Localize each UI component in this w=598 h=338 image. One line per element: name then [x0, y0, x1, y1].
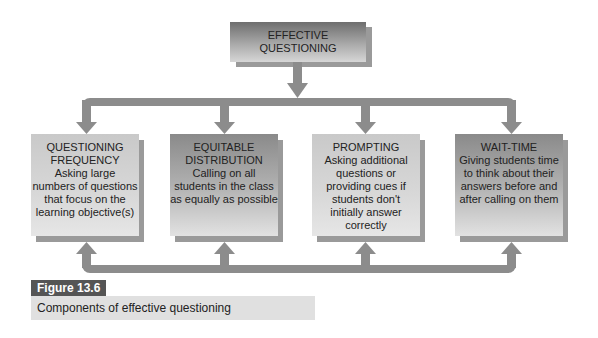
- component-desc: providing cues if: [312, 180, 420, 193]
- figure-label: Figure 13.6: [31, 280, 106, 296]
- root-line2: QUESTIONING: [230, 42, 366, 55]
- component-desc: Asking additional: [312, 154, 420, 167]
- component-desc: initially answer: [312, 206, 420, 219]
- stem-2: [220, 100, 229, 124]
- component-desc: students in the class: [170, 180, 278, 193]
- component-desc: after calling on them: [455, 193, 563, 206]
- component-title: FREQUENCY: [31, 154, 139, 167]
- component-prompting: PROMPTING Asking additional questions or…: [312, 134, 420, 236]
- root-box-effective-questioning: EFFECTIVE QUESTIONING: [230, 22, 366, 62]
- figure-caption: Components of effective questioning: [31, 296, 315, 320]
- component-desc: Calling on all: [170, 167, 278, 180]
- component-desc: Asking large: [31, 167, 139, 180]
- component-desc: questions or: [312, 167, 420, 180]
- component-desc: answers before and: [455, 180, 563, 193]
- component-desc: that focus on the: [31, 193, 139, 206]
- stem-4: [507, 100, 516, 124]
- component-desc: students don't: [312, 193, 420, 206]
- component-desc: to think about their: [455, 167, 563, 180]
- bottom-bracket: [82, 265, 516, 273]
- root-stem: [293, 62, 302, 84]
- component-desc: correctly: [312, 219, 420, 232]
- top-bracket: [82, 98, 516, 106]
- root-line1: EFFECTIVE: [230, 29, 366, 42]
- arrow-down-icon: [287, 83, 308, 99]
- component-title: QUESTIONING: [31, 141, 139, 154]
- component-desc: learning objective(s): [31, 206, 139, 219]
- stem-1: [82, 100, 91, 124]
- component-equitable-distribution: EQUITABLE DISTRIBUTION Calling on all st…: [170, 134, 278, 236]
- component-desc: Giving students time: [455, 154, 563, 167]
- stem-3: [361, 100, 370, 124]
- component-title: WAIT-TIME: [455, 141, 563, 154]
- component-wait-time: WAIT-TIME Giving students time to think …: [455, 134, 563, 236]
- component-title: DISTRIBUTION: [170, 154, 278, 167]
- component-title: PROMPTING: [312, 141, 420, 154]
- component-desc: as equally as possible: [170, 193, 278, 206]
- component-desc: numbers of questions: [31, 180, 139, 193]
- component-questioning-frequency: QUESTIONING FREQUENCY Asking large numbe…: [31, 134, 139, 236]
- component-title: EQUITABLE: [170, 141, 278, 154]
